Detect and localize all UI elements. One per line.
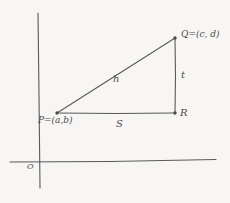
diagram-canvas: Q=(c, d) P=(a,b) R h t S O: [0, 0, 230, 203]
side-label-hypotenuse: h: [113, 74, 119, 84]
side-label-horizontal-leg: S: [116, 119, 123, 129]
origin-label: O: [27, 163, 34, 171]
side-label-vertical-leg: t: [181, 70, 185, 80]
vertical-leg-line: [175, 38, 176, 113]
vertex-label-q: Q=(c, d): [181, 30, 219, 39]
x-axis-line: [10, 160, 216, 163]
vertex-label-r: R: [180, 108, 188, 118]
vertex-dot-q: [173, 36, 176, 39]
horizontal-leg-line: [57, 113, 175, 114]
vertex-label-p: P=(a,b): [38, 116, 73, 125]
vertex-dot-r: [173, 111, 176, 114]
